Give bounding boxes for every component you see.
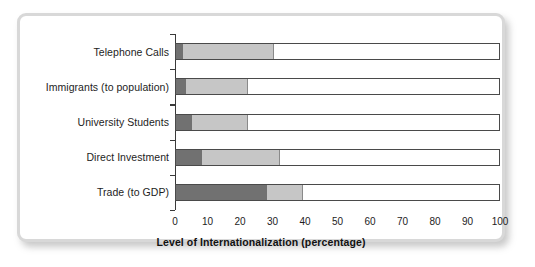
- y-axis-tick: [170, 210, 175, 211]
- category-label: Telephone Calls: [19, 46, 169, 57]
- stacked-bar: [175, 43, 500, 60]
- y-axis-tick: [170, 34, 175, 35]
- bar-segment-dark: [176, 150, 202, 165]
- bar-segment-remainder: [248, 79, 500, 94]
- chart-frame: Telephone CallsImmigrants (to population…: [17, 13, 505, 242]
- bar-segment-remainder: [303, 185, 499, 200]
- x-axis-tick-label: 0: [172, 216, 178, 227]
- x-axis-tick-label: 50: [332, 216, 343, 227]
- category-label: Trade (to GDP): [19, 187, 169, 198]
- x-axis-tick-label: 60: [364, 216, 375, 227]
- y-axis-tick: [170, 69, 175, 70]
- x-axis-title: Level of Internationalization (percentag…: [20, 236, 502, 248]
- bar-segment-remainder: [274, 44, 500, 59]
- bar-segment-light: [202, 150, 280, 165]
- x-axis-tick-label: 10: [202, 216, 213, 227]
- bar-segment-dark: [176, 79, 186, 94]
- x-axis-tick-label: 20: [234, 216, 245, 227]
- category-label: Immigrants (to population): [19, 81, 169, 92]
- stacked-bar: [175, 114, 500, 131]
- category-label: University Students: [19, 117, 169, 128]
- y-axis-tick: [170, 140, 175, 141]
- x-axis-tick-label: 30: [267, 216, 278, 227]
- x-axis-tick-label: 100: [492, 216, 509, 227]
- x-axis-tick-label: 40: [299, 216, 310, 227]
- x-axis-tick-label: 90: [462, 216, 473, 227]
- bar-segment-light: [192, 115, 247, 130]
- bar-segment-light: [186, 79, 248, 94]
- y-axis-tick: [170, 104, 175, 105]
- stacked-bar: [175, 184, 500, 201]
- bar-segment-remainder: [248, 115, 500, 130]
- x-axis-tick-label: 70: [397, 216, 408, 227]
- bar-segment-light: [183, 44, 274, 59]
- stacked-bar: [175, 149, 500, 166]
- bar-segment-dark: [176, 185, 267, 200]
- bar-segment-dark: [176, 115, 192, 130]
- x-axis-tick-label: 80: [429, 216, 440, 227]
- category-label: Direct Investment: [19, 152, 169, 163]
- stacked-bar: [175, 78, 500, 95]
- plot-area: Telephone CallsImmigrants (to population…: [20, 16, 502, 239]
- y-axis-tick: [170, 175, 175, 176]
- bar-segment-light: [267, 185, 303, 200]
- bar-segment-remainder: [280, 150, 499, 165]
